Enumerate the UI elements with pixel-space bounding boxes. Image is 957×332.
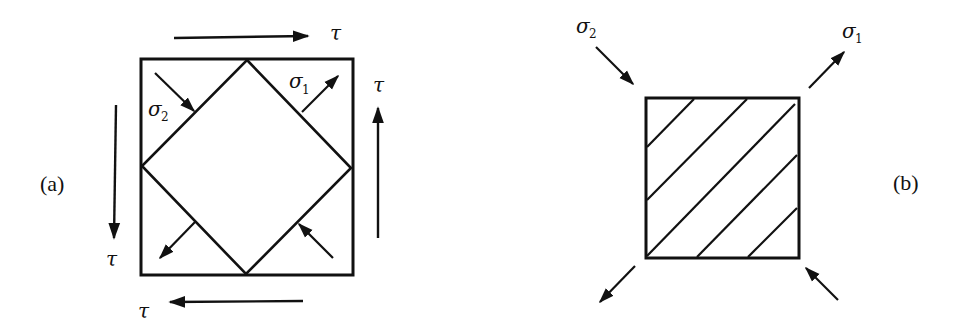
sigma2-label-b: σ 2	[576, 14, 597, 41]
sigma1-arrow-bottom-left	[160, 222, 195, 258]
sigma2-arrow-top-left-b	[596, 47, 633, 84]
sigma2-arrow-bottom-right	[299, 224, 333, 258]
shear-arrow-left	[114, 105, 116, 238]
hatch-lines	[647, 99, 797, 257]
stress-diagram: (a) τ τ τ τ σ 2 σ 1 (b)	[0, 0, 957, 332]
panel-a-label: (a)	[40, 171, 64, 196]
sigma2-label-a: σ 2	[148, 97, 169, 124]
sigma1-arrow-bottom-left-b	[600, 266, 635, 302]
svg-text:2: 2	[589, 27, 597, 41]
sigma1-label-a: σ 1	[289, 69, 310, 97]
shear-arrow-top	[174, 36, 308, 38]
tau-label-top: τ	[330, 21, 342, 45]
sigma1-arrow-top-right-b	[809, 52, 844, 88]
panel-b-label: (b)	[893, 170, 919, 195]
panel-a: (a) τ τ τ τ σ 2 σ 1	[40, 21, 385, 323]
panel-b: (b) σ 2 σ 1	[576, 14, 919, 302]
tau-label-bottom: τ	[138, 299, 150, 323]
svg-text:1: 1	[855, 32, 863, 46]
sigma1-label-b: σ 1	[842, 19, 863, 46]
svg-text:1: 1	[302, 83, 310, 97]
svg-text:2: 2	[161, 110, 169, 124]
tau-label-left: τ	[106, 247, 118, 271]
tau-label-right: τ	[373, 73, 385, 97]
sigma2-arrow-bottom-right-b	[806, 268, 838, 300]
shear-arrow-bottom	[170, 301, 303, 302]
